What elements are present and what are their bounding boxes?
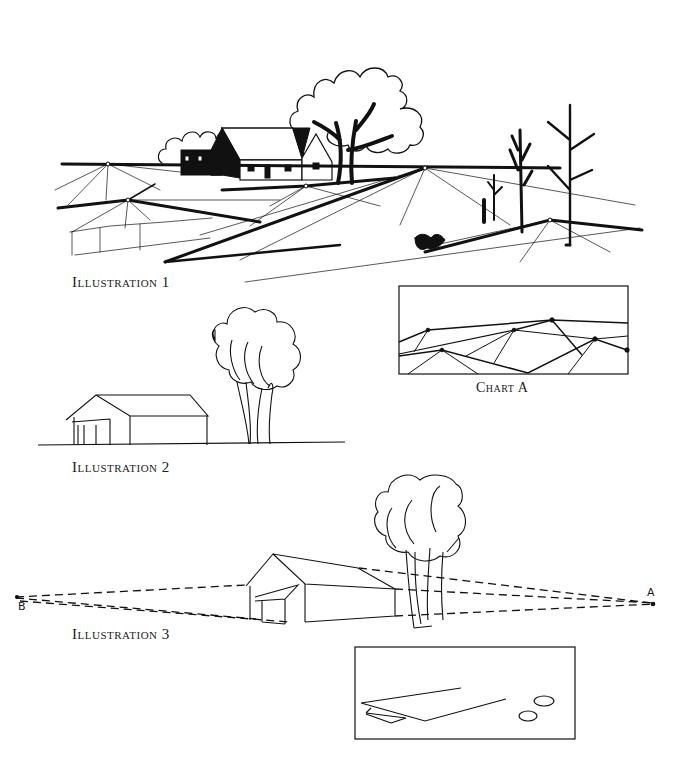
- vanishing-point-b-label: B: [18, 600, 26, 613]
- illustration-3-vanishing-points: [16, 475, 656, 628]
- vanishing-point-a-label: A: [647, 586, 655, 599]
- farmhouse: [181, 128, 332, 180]
- caption-illustration-3: Illustration 3: [72, 626, 170, 643]
- caption-illustration-2: Illustration 2: [72, 459, 170, 476]
- chart-a-diagram: [399, 286, 629, 374]
- tree-trunks: [237, 382, 273, 444]
- inset-plan-diagram: [355, 647, 575, 739]
- tree3-crown: [375, 475, 466, 561]
- page-illustrations: [0, 0, 686, 782]
- illustration-2-barn-and-tree: [38, 308, 345, 445]
- big-tree-crown: [290, 68, 423, 153]
- caption-chart-a: Chart A: [476, 380, 528, 396]
- illustration-1-landscape: [55, 68, 642, 282]
- tree-crown: [212, 308, 300, 390]
- caption-illustration-1: Illustration 1: [72, 274, 170, 291]
- perspective-guides: [16, 568, 655, 622]
